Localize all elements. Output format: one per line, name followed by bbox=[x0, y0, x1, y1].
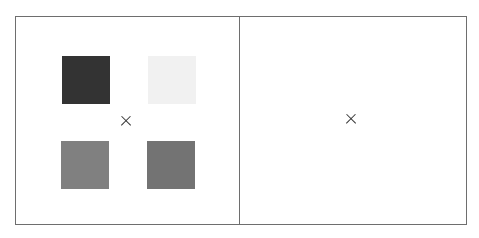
square-top-left bbox=[62, 56, 110, 104]
display-frame bbox=[15, 16, 467, 225]
panel-divider bbox=[239, 16, 240, 224]
fixation-cross-icon bbox=[120, 115, 132, 127]
square-bottom-left bbox=[61, 141, 109, 189]
square-bottom-right bbox=[147, 141, 195, 189]
square-top-right bbox=[148, 56, 196, 104]
fixation-cross-icon bbox=[345, 113, 357, 125]
